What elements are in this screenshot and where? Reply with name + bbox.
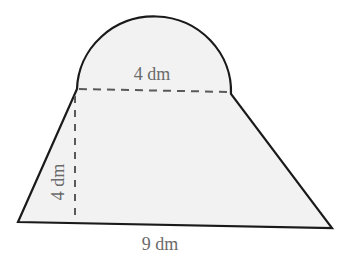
diameter-label: 4 dm [134,64,171,84]
bottom-base-label: 9 dm [142,234,179,254]
composite-shape-diagram: 4 dm 4 dm 9 dm [0,0,350,260]
height-label: 4 dm [48,164,68,201]
